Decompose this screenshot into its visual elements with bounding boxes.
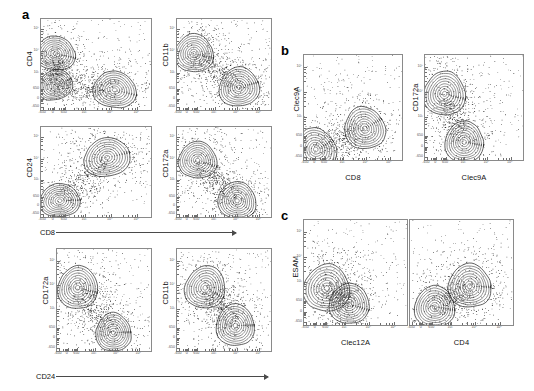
y-tick-minor — [177, 334, 179, 335]
y-tick-minor — [177, 298, 179, 299]
y-tick-major — [57, 285, 60, 286]
cytometry-cloud — [410, 220, 513, 325]
x-tick-minor — [353, 158, 354, 160]
x-tick-minor — [474, 158, 475, 160]
plot-a6-cd11b-vs-cd24[interactable] — [176, 248, 272, 352]
x-tick-label: 0 — [186, 352, 188, 356]
x-tick-label: -650 — [301, 161, 308, 165]
x-tick-minor — [63, 349, 64, 351]
y-tick-minor — [425, 69, 427, 70]
y-tick-label: 650 — [292, 135, 302, 139]
y-tick-minor — [41, 94, 43, 95]
plot-b2-cd172a-vs-clec9a[interactable] — [424, 54, 524, 161]
x-tick-label: 10⁴ — [107, 111, 113, 115]
y-tick-minor — [304, 142, 306, 143]
y-tick-minor — [177, 330, 179, 331]
x-tick-label: 650 — [61, 218, 67, 222]
y-tick-minor — [57, 287, 59, 288]
y-tick-major — [425, 157, 428, 158]
contour-ring — [100, 77, 129, 102]
x-tick-minor — [89, 349, 90, 351]
x-tick-label: 650 — [193, 111, 199, 115]
y-tick-label: -650 — [413, 155, 423, 159]
plot-c2-esam-vs-cd4[interactable] — [409, 219, 514, 326]
x-tick-label: 10⁴ — [233, 352, 239, 356]
plot-a4-cd172a-vs-cd8[interactable] — [176, 126, 272, 218]
y-tick-minor — [177, 344, 179, 345]
y-tick-label: 10⁴ — [29, 157, 39, 161]
x-tick-label: 0 — [186, 111, 188, 115]
y-tick-minor — [304, 81, 306, 82]
contour-ring — [345, 299, 354, 308]
x-tick-label: 650 — [428, 326, 434, 330]
y-tick-minor — [41, 34, 43, 35]
y-tick-minor — [177, 293, 179, 294]
plot-a3-cd24-vs-cd8[interactable] — [40, 126, 152, 218]
x-tick-minor — [102, 108, 103, 110]
plot-a5-cd172a-vs-cd24[interactable] — [56, 248, 152, 352]
y-tick-minor — [304, 94, 306, 95]
x-tick-minor — [209, 349, 210, 351]
plot-b1-clec9a-vs-cd8[interactable] — [303, 54, 403, 161]
y-tick-label: 10⁵ — [292, 65, 302, 69]
x-tick-label: 0 — [52, 111, 54, 115]
y-tick-label: -650 — [165, 212, 175, 216]
y-tick-label: -650 — [292, 155, 302, 159]
y-tick-minor — [177, 63, 179, 64]
contour-ring — [187, 150, 209, 171]
x-tick-label: 0 — [66, 352, 68, 356]
y-tick-minor — [41, 149, 43, 150]
x-tick-minor — [123, 108, 124, 110]
x-tick-minor — [74, 215, 75, 217]
y-tick-minor — [41, 141, 43, 142]
x-tick-label: 10⁴ — [107, 218, 113, 222]
y-tick-minor — [177, 163, 179, 164]
contour-ring — [458, 274, 482, 298]
contour-ring — [177, 36, 212, 69]
x-tick-minor — [102, 215, 103, 217]
y-tick-major — [57, 348, 60, 349]
contour-ring — [440, 89, 449, 99]
contour-ring — [460, 138, 469, 147]
x-tick-label: 10³ — [461, 161, 466, 165]
x-tick-label: -650 — [407, 326, 414, 330]
x-tick-label: 10³ — [340, 161, 345, 165]
y-tick-label: 10⁴ — [165, 157, 175, 161]
y-tick-label: 0 — [29, 204, 39, 208]
y-tick-minor — [177, 37, 179, 38]
contour-ring — [92, 144, 123, 170]
y-tick-minor — [41, 74, 43, 75]
axis-label-y-a6: CD11b — [160, 295, 170, 305]
x-tick-minor — [247, 108, 248, 110]
y-tick-major — [304, 92, 307, 93]
contour-ring — [73, 283, 82, 293]
y-tick-minor — [425, 121, 427, 122]
panel-letter-a: a — [22, 8, 29, 21]
y-tick-minor — [177, 76, 179, 77]
contour-ring — [235, 83, 244, 92]
y-tick-minor — [177, 93, 179, 94]
y-tick-minor — [57, 269, 59, 270]
y-tick-minor — [177, 139, 179, 140]
contour-group — [41, 183, 80, 216]
plot-c1-esam-vs-clec12a[interactable] — [303, 219, 408, 326]
y-tick-major — [177, 51, 180, 52]
y-tick-major — [177, 107, 180, 108]
y-tick-minor — [41, 41, 43, 42]
plot-a1-cd4-vs-cd8[interactable] — [40, 18, 152, 111]
y-tick-minor — [41, 207, 43, 208]
y-tick-minor — [57, 293, 59, 294]
plot-a2-cd11b-vs-cd8[interactable] — [176, 18, 272, 111]
y-tick-minor — [41, 139, 43, 140]
y-tick-minor — [304, 97, 306, 98]
contour-ring — [75, 285, 79, 290]
y-tick-minor — [304, 315, 306, 316]
x-tick-minor — [78, 108, 79, 110]
y-tick-minor — [425, 94, 427, 95]
x-tick-minor — [229, 108, 230, 110]
y-tick-label: 10³ — [292, 280, 302, 284]
contour-ring — [183, 43, 205, 64]
x-tick-minor — [498, 158, 499, 160]
y-tick-minor — [177, 53, 179, 54]
x-tick-minor — [386, 323, 387, 325]
